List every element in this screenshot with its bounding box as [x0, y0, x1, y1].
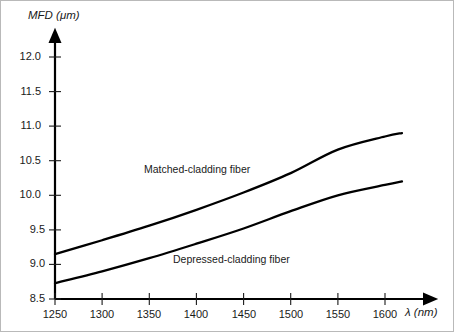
x-tick-label: 1250 — [35, 308, 75, 320]
y-tick-label: 8.5 — [11, 292, 45, 304]
x-tick-label: 1450 — [224, 308, 264, 320]
series-annotation-depressed-cladding-fiber: Depressed-cladding fiber — [173, 253, 290, 265]
y-tick-label: 11.0 — [7, 119, 41, 131]
x-tick-label: 1550 — [318, 308, 358, 320]
y-tick-label: 10.0 — [7, 188, 41, 200]
series-line-matched-cladding-fiber — [55, 133, 402, 254]
y-axis-title: MFD (μm) — [28, 9, 80, 21]
y-tick-label: 9.5 — [11, 223, 45, 235]
y-tick-label: 10.5 — [7, 154, 41, 166]
y-tick-label: 12.0 — [7, 50, 41, 62]
x-tick-label: 1400 — [176, 308, 216, 320]
y-tick-label: 9.0 — [11, 257, 45, 269]
chart-figure: MFD (μm) λ (nm) 8.5 9.0 9.5 10.0 10.5 11… — [0, 0, 454, 332]
x-tick-label: 1350 — [129, 308, 169, 320]
y-tick-label: 11.5 — [7, 85, 41, 97]
series-annotation-matched-cladding-fiber: Matched-cladding fiber — [144, 163, 250, 175]
x-axis-title: λ (nm) — [405, 306, 438, 318]
series-line-depressed-cladding-fiber — [55, 181, 402, 283]
x-tick-label: 1500 — [271, 308, 311, 320]
x-tick-label: 1300 — [82, 308, 122, 320]
x-tick-label: 1600 — [365, 308, 405, 320]
